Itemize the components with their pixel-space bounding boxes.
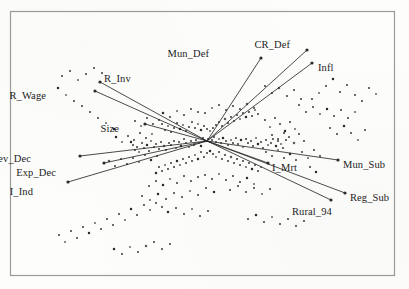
scatter-point — [138, 151, 140, 153]
scatter-point — [209, 130, 211, 132]
scatter-point — [191, 208, 193, 210]
variable-label-r_inv: R_Inv — [104, 74, 131, 85]
scatter-point — [270, 142, 272, 144]
scatter-point — [189, 190, 191, 192]
scatter-point — [319, 155, 321, 157]
scatter-point — [148, 150, 150, 152]
scatter-point — [175, 207, 177, 209]
scatter-point — [295, 159, 297, 161]
scatter-point — [269, 188, 271, 190]
scatter-point — [311, 98, 313, 100]
scatter-point — [287, 218, 289, 220]
scatter-point — [218, 138, 220, 140]
scatter-point — [253, 183, 255, 185]
scatter-point — [230, 156, 233, 159]
scatter-point — [347, 117, 349, 119]
loading-vector-tip-rural_94 — [329, 198, 332, 201]
scatter-point — [305, 111, 307, 113]
scatter-point — [150, 159, 153, 162]
variable-label-i_mrt: I_Mrt — [272, 163, 297, 174]
scatter-point — [282, 147, 284, 149]
scatter-point — [85, 73, 87, 75]
scatter-point — [161, 248, 163, 250]
variable-label-rural_94: Rural_94 — [292, 207, 332, 218]
scatter-point — [271, 155, 273, 157]
scatter-point — [207, 210, 209, 212]
scatter-point — [197, 123, 199, 125]
scatter-point — [58, 234, 60, 236]
scatter-point — [176, 160, 179, 163]
scatter-point — [145, 137, 147, 139]
scatter-point — [354, 94, 356, 96]
scatter-point — [211, 139, 213, 141]
scatter-point — [94, 222, 96, 224]
scatter-point — [89, 111, 91, 113]
scatter-point — [169, 178, 171, 180]
scatter-point — [146, 117, 148, 119]
scatter-point — [280, 143, 282, 145]
scatter-point — [81, 105, 83, 107]
scatter-point — [245, 116, 248, 119]
scatter-point — [283, 132, 285, 134]
scatter-point — [239, 118, 241, 120]
loading-vector-tip-size — [143, 122, 146, 125]
scatter-point — [224, 118, 227, 121]
scatter-point — [253, 107, 255, 109]
loading-vector-size — [145, 124, 207, 141]
scatter-point — [155, 180, 157, 182]
scatter-point — [283, 157, 285, 159]
scatter-point — [237, 143, 239, 145]
scatter-point — [279, 123, 281, 125]
scatter-point — [251, 115, 253, 117]
scatter-point — [188, 126, 190, 128]
scatter-point — [218, 173, 220, 175]
variable-label-rev_dec: Rev_Dec — [0, 154, 31, 165]
scatter-point — [232, 142, 234, 144]
scatter-point — [134, 120, 136, 122]
scatter-point — [165, 198, 167, 200]
scatter-point — [326, 108, 329, 111]
scatter-point — [332, 78, 335, 81]
scatter-point — [200, 129, 203, 132]
scatter-point — [141, 142, 143, 144]
scatter-point — [315, 171, 318, 174]
loading-vector-tip-r_inv — [98, 80, 101, 83]
scatter-point — [173, 166, 175, 168]
scatter-point — [168, 142, 170, 144]
scatter-point — [130, 208, 133, 211]
scatter-point — [190, 108, 192, 110]
scatter-point — [236, 158, 238, 160]
scatter-point — [225, 179, 227, 181]
scatter-point — [143, 204, 145, 206]
scatter-point — [267, 144, 269, 146]
scatter-point — [285, 139, 287, 141]
scatter-point — [182, 158, 184, 160]
scatter-point — [150, 140, 152, 142]
scatter-point — [227, 160, 229, 162]
scatter-point — [368, 87, 370, 89]
scatter-point — [339, 91, 341, 93]
scatter-point — [149, 209, 151, 211]
scatter-point — [161, 123, 163, 125]
scatter-point — [181, 196, 183, 198]
scatter-point — [252, 145, 254, 147]
scatter-point — [88, 232, 91, 235]
scatter-point — [145, 245, 148, 248]
scatter-point — [357, 139, 359, 141]
scatter-point — [146, 144, 149, 147]
scatter-point — [221, 158, 223, 160]
scatter-point — [129, 246, 131, 248]
scatter-point — [157, 193, 160, 196]
scatter-point — [155, 202, 157, 204]
scatter-point — [319, 113, 321, 115]
loading-vector-tip-cr_def — [305, 48, 308, 51]
scatter-point — [251, 168, 254, 171]
scatter-point — [197, 158, 200, 161]
scatter-point — [293, 142, 296, 145]
scatter-point — [206, 128, 208, 130]
scatter-point — [245, 191, 247, 193]
scatter-point — [364, 129, 366, 131]
variable-label-mun_def: Mun_Def — [167, 49, 209, 60]
scatter-point — [247, 218, 249, 220]
scatter-point — [164, 164, 166, 166]
